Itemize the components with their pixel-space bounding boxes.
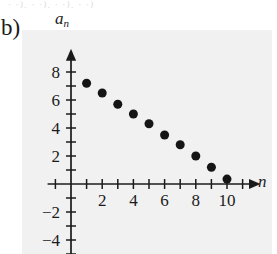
data-point (82, 79, 91, 88)
data-point (191, 152, 200, 161)
x-axis-tick-labels: 246810 (98, 191, 236, 210)
x-tick-label: 6 (160, 191, 169, 210)
data-point (223, 175, 232, 184)
y-axis-tick-labels: 8642−2−4 (42, 63, 61, 250)
x-tick-label: 4 (129, 191, 138, 210)
data-point (176, 140, 185, 149)
data-point (207, 163, 216, 172)
data-point (98, 89, 107, 98)
data-point (129, 110, 138, 119)
sequence-scatter-figure: · ·), · ·), · ·), · ·) b) an n 246810 86… (0, 0, 277, 254)
x-tick-label: 2 (98, 191, 107, 210)
data-point (160, 131, 169, 140)
x-tick-label: 10 (219, 191, 236, 210)
plot-svg: 246810 8642−2−4 (0, 0, 277, 254)
y-tick-label: −4 (42, 231, 61, 250)
y-tick-label: 2 (52, 147, 61, 166)
axis-lines (48, 59, 251, 254)
data-point-group (82, 79, 231, 184)
x-tick-label: 8 (192, 191, 201, 210)
y-tick-label: 6 (52, 91, 61, 110)
y-tick-label: −2 (42, 203, 60, 222)
data-point (145, 119, 154, 128)
y-tick-label: 4 (52, 119, 61, 138)
data-point (113, 100, 122, 109)
y-tick-label: 8 (52, 63, 61, 82)
